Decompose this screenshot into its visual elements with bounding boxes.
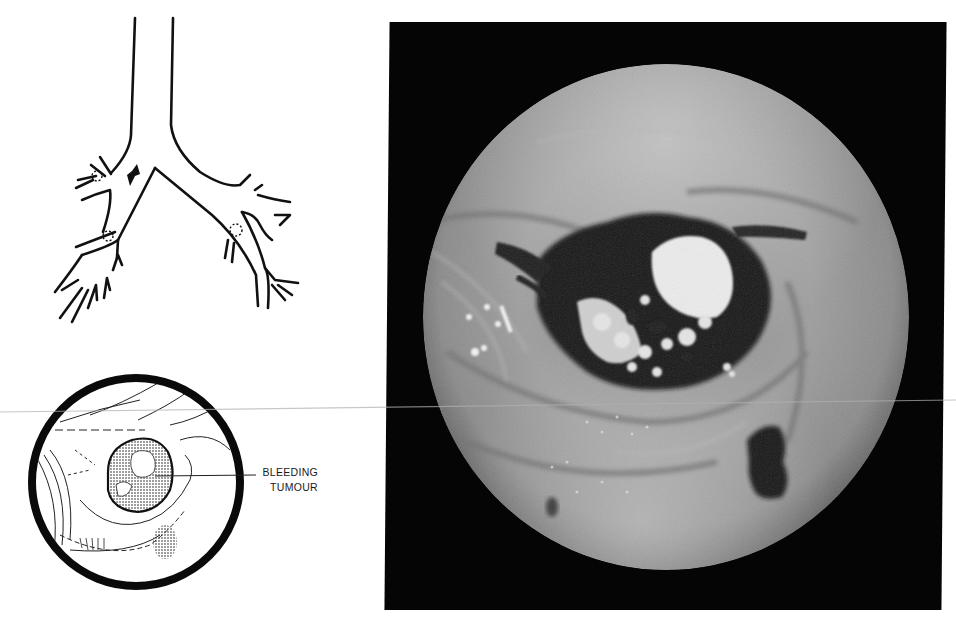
annotation-line-2: TUMOUR <box>258 480 318 495</box>
bronchoscopy-photograph <box>387 22 944 610</box>
figure: BLEEDING TUMOUR <box>0 0 956 617</box>
annotation-leader-line <box>0 0 330 600</box>
annotation-line-1: BLEEDING <box>258 465 318 480</box>
annotation-label: BLEEDING TUMOUR <box>258 465 318 495</box>
